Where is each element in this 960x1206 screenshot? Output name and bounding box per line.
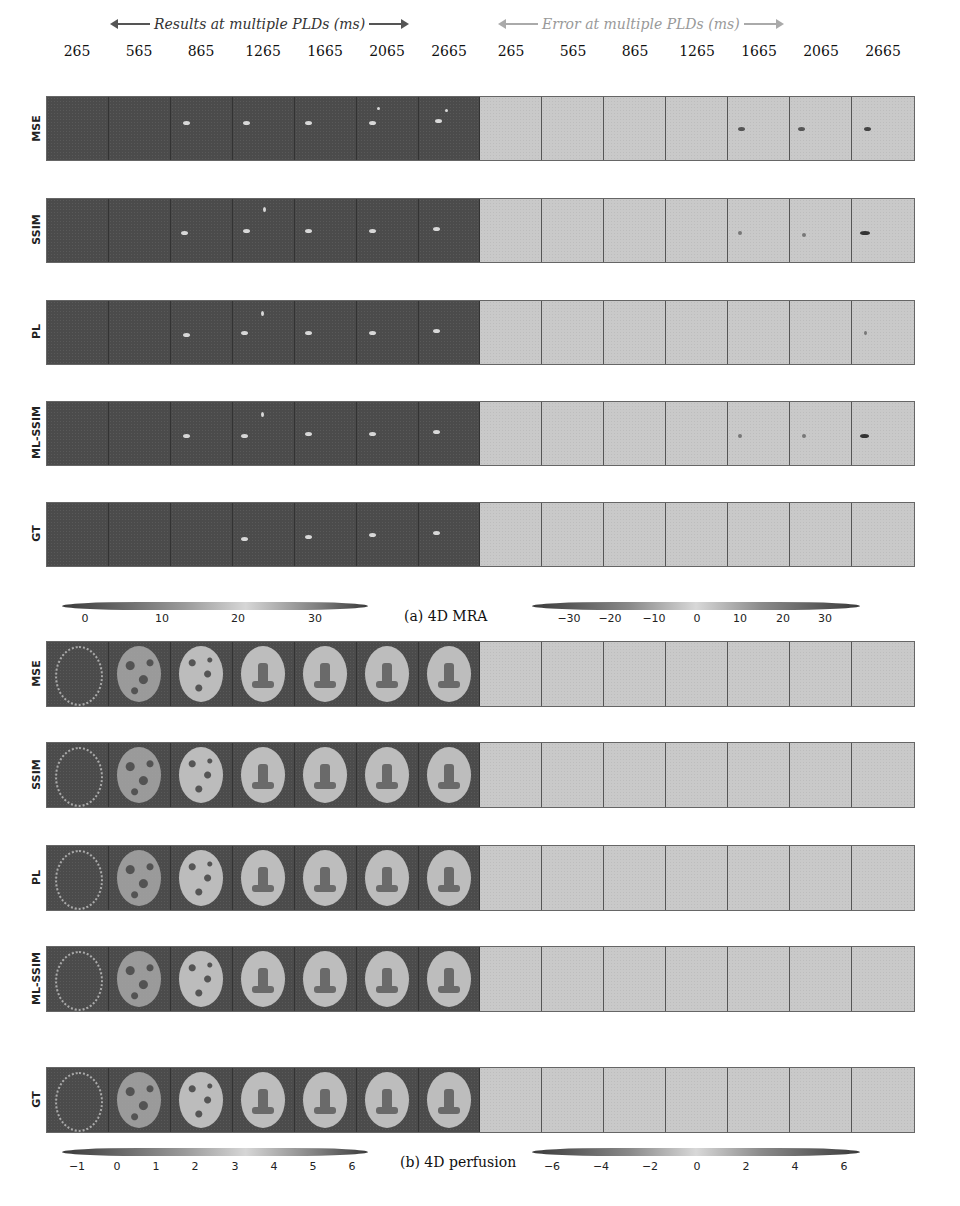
image-cell <box>419 301 481 364</box>
image-cell <box>233 642 295 706</box>
error-cell <box>604 1068 666 1132</box>
image-cell <box>295 301 357 364</box>
error-cell <box>728 402 790 465</box>
results-title: Results at multiple PLDs (ms) <box>154 16 365 32</box>
error-cell <box>480 846 542 910</box>
row-label: SSIM <box>30 735 43 815</box>
image-cell <box>419 97 481 160</box>
error-cell <box>728 846 790 910</box>
error-cell <box>542 947 604 1011</box>
image-cell <box>357 301 419 364</box>
tick-label: −20 <box>598 612 621 625</box>
tick-label: 10 <box>733 612 747 625</box>
tick-label: 4 <box>792 1160 799 1173</box>
tick-label: 10 <box>155 612 169 625</box>
error-cell <box>604 642 666 706</box>
image-cell <box>47 503 109 566</box>
error-cell <box>852 642 914 706</box>
tick-label: 4 <box>271 1160 278 1173</box>
image-cell <box>233 1068 295 1132</box>
image-cell <box>47 301 109 364</box>
row-label: PL <box>30 838 43 918</box>
image-cell <box>295 402 357 465</box>
image-cell <box>295 199 357 262</box>
pld-label: 565 <box>542 43 604 59</box>
error-cell <box>790 1068 852 1132</box>
right-arrow-icon <box>744 23 778 25</box>
right-arrow-icon <box>369 23 403 25</box>
error-cell <box>666 642 728 706</box>
error-cell <box>604 301 666 364</box>
image-cell <box>233 846 295 910</box>
image-cell <box>419 743 481 807</box>
error-cell <box>852 743 914 807</box>
error-cell <box>728 199 790 262</box>
image-cell <box>233 97 295 160</box>
tick-label: 0 <box>82 612 89 625</box>
mra-row-pl <box>46 300 915 365</box>
image-cell <box>419 199 481 262</box>
pld-label: 1265 <box>666 43 728 59</box>
pld-label: 2665 <box>418 43 480 59</box>
error-cell <box>480 199 542 262</box>
row-label: MSE <box>30 89 43 169</box>
mra-error-colorbar <box>532 602 860 610</box>
mra-result-colorbar <box>62 602 368 610</box>
image-cell <box>295 947 357 1011</box>
image-cell <box>357 1068 419 1132</box>
error-cell <box>666 947 728 1011</box>
error-cell <box>480 402 542 465</box>
error-cell <box>852 301 914 364</box>
perfusion-result-colorbar <box>62 1148 368 1156</box>
tick-label: −4 <box>593 1160 609 1173</box>
pld-labels: 265 565 865 1265 1665 2065 2665 265 565 … <box>46 43 914 59</box>
tick-label: −6 <box>544 1160 560 1173</box>
image-cell <box>109 199 171 262</box>
image-cell <box>233 199 295 262</box>
image-cell <box>419 503 481 566</box>
error-cell <box>542 743 604 807</box>
error-cell <box>790 97 852 160</box>
image-cell <box>109 97 171 160</box>
tick-label: −1 <box>69 1160 85 1173</box>
error-cell <box>666 97 728 160</box>
image-cell <box>233 301 295 364</box>
error-cell <box>852 199 914 262</box>
image-cell <box>109 642 171 706</box>
mra-row-ml-ssim <box>46 401 915 466</box>
image-cell <box>47 402 109 465</box>
perfusion-error-colorbar <box>532 1148 860 1156</box>
error-cell <box>480 301 542 364</box>
error-cell <box>542 1068 604 1132</box>
image-cell <box>419 1068 481 1132</box>
row-label: ML-SSIM <box>30 939 43 1019</box>
mra-row-mse <box>46 96 915 161</box>
error-cell <box>480 1068 542 1132</box>
perfusion-row-pl <box>46 845 915 911</box>
tick-label: 0 <box>694 1160 701 1173</box>
image-cell <box>171 642 233 706</box>
error-cell <box>666 503 728 566</box>
image-cell <box>419 846 481 910</box>
image-cell <box>47 97 109 160</box>
error-cell <box>542 846 604 910</box>
tick-label: −2 <box>642 1160 658 1173</box>
image-cell <box>47 199 109 262</box>
error-cell <box>728 1068 790 1132</box>
row-label: MSE <box>30 634 43 714</box>
pld-label: 865 <box>604 43 666 59</box>
error-cell <box>542 199 604 262</box>
error-cell <box>666 743 728 807</box>
row-label: GT <box>30 494 43 574</box>
image-cell <box>47 947 109 1011</box>
error-cell <box>790 503 852 566</box>
image-cell <box>109 846 171 910</box>
row-label: ML-SSIM <box>30 393 43 473</box>
error-cell <box>666 1068 728 1132</box>
row-label: PL <box>30 292 43 372</box>
error-cell <box>790 642 852 706</box>
error-cell <box>480 503 542 566</box>
error-cell <box>604 743 666 807</box>
image-cell <box>171 199 233 262</box>
error-cell <box>604 503 666 566</box>
